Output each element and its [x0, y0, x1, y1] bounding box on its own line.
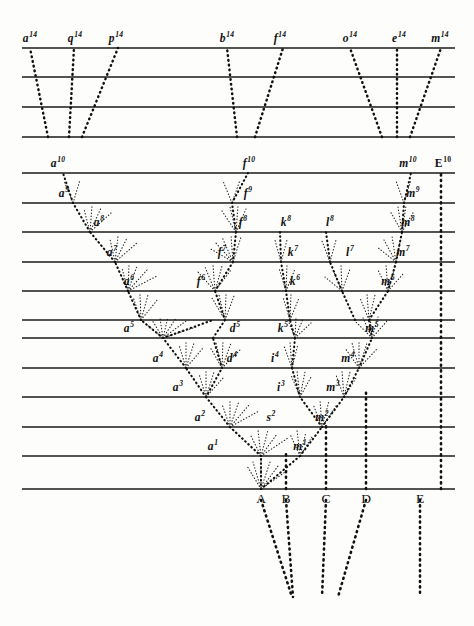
twiglet: [206, 377, 224, 397]
species-label-i4: i4: [271, 351, 279, 364]
species-label-a4: a4: [153, 351, 163, 364]
generation-superscript: 8: [100, 214, 104, 223]
twiglet: [210, 347, 222, 368]
generation-superscript: 9: [248, 185, 252, 194]
generation-superscript: 8: [287, 214, 291, 223]
species-letter: e: [392, 32, 397, 44]
species-label-a5: a5: [124, 321, 134, 334]
species-label-f14: f14: [274, 31, 287, 44]
species-label-a6: a6: [124, 274, 134, 287]
generation-superscript: 7: [222, 244, 226, 253]
twiglet: [146, 324, 163, 338]
generation-superscript: 1: [303, 438, 307, 447]
species-label-q14: q14: [68, 31, 82, 44]
species-label-o14: o14: [343, 31, 357, 44]
trunk-i4-to-k5: [292, 338, 295, 368]
generation-superscript: 7: [113, 244, 117, 253]
branch-p14: [82, 48, 118, 137]
twiglet: [230, 411, 259, 427]
twiglet: [186, 348, 203, 368]
twiglet: [230, 405, 249, 427]
trunk-a2-to-a3: [206, 397, 230, 427]
species-letter: m: [381, 275, 390, 287]
species-label-k7: k7: [288, 245, 298, 258]
species-label-k6: k6: [290, 274, 300, 287]
generation-superscript: 10: [247, 155, 255, 164]
twiglet: [290, 342, 292, 368]
generation-superscript: 4: [159, 350, 163, 359]
trunk-a4-to-a5: [163, 338, 186, 368]
twiglet: [384, 240, 396, 262]
twiglet: [222, 341, 223, 368]
twiglet: [205, 267, 215, 291]
species-label-a3: a3: [173, 380, 183, 393]
species-label-d5: d5: [230, 321, 240, 334]
trunk-f7-to-f8: [215, 262, 233, 291]
generation-superscript: 14: [29, 30, 37, 39]
generation-superscript: 6: [391, 273, 395, 282]
species-label-d4: d4: [227, 351, 237, 364]
species-letter: i: [277, 381, 280, 393]
species-letter: l: [326, 216, 329, 228]
generation-superscript: 10: [57, 155, 65, 164]
generation-superscript: 5: [284, 320, 288, 329]
species-label-a7: a7: [107, 245, 117, 258]
twiglet: [236, 206, 238, 232]
twiglet: [212, 298, 225, 320]
generation-superscript: 2: [201, 409, 205, 418]
twiglet: [359, 343, 367, 368]
species-label-m10: m10: [399, 156, 417, 169]
twiglet: [163, 318, 176, 338]
genus-label-B: B: [281, 492, 290, 506]
generation-superscript: 7: [294, 244, 298, 253]
generation-superscript: 8: [330, 214, 334, 223]
branch-b14: [227, 48, 237, 137]
species-letter: m: [396, 246, 405, 258]
species-label-a9: a9: [59, 186, 69, 199]
species-label-m3: m3: [326, 380, 340, 393]
twiglet: [295, 323, 311, 338]
generation-superscript: 4: [275, 350, 279, 359]
trunk-m6-to-m7: [369, 291, 388, 320]
twiglet: [333, 270, 342, 291]
species-label-e14: e14: [392, 31, 406, 44]
species-label-f8: f8: [239, 215, 248, 228]
species-letter: f: [274, 32, 278, 44]
twiglet: [367, 294, 369, 320]
species-label-k5: k5: [278, 321, 288, 334]
trunk-a3-to-d4: [206, 368, 222, 397]
species-label-s2: s2: [266, 410, 275, 423]
species-letter: m: [326, 381, 335, 393]
species-label-l7: l7: [346, 245, 354, 258]
species-label-f9: f9: [244, 186, 253, 199]
genus-label-E: E: [416, 492, 424, 506]
species-label-m8: m8: [401, 215, 415, 228]
generation-superscript: 14: [441, 30, 449, 39]
species-letter: f: [197, 275, 201, 287]
branch-o14: [350, 48, 382, 137]
species-label-a10: a10: [51, 156, 65, 169]
species-letter: m: [341, 352, 350, 364]
trunk-d4-to-d5: [213, 338, 222, 368]
species-letter: m: [293, 440, 302, 452]
generation-superscript: 6: [296, 273, 300, 282]
trunk-a3-to-a4: [186, 368, 206, 397]
trunk-a1-to-a2: [230, 427, 261, 456]
twiglet: [73, 180, 80, 203]
trunk-m6-to-l7: [342, 291, 355, 320]
darwin-divergence-diagram: [0, 0, 474, 626]
generation-superscript: 2: [272, 409, 276, 418]
generation-superscript: 14: [398, 30, 406, 39]
species-letter: E: [435, 157, 443, 169]
generation-superscript: 14: [278, 30, 286, 39]
species-label-f7: f7: [218, 245, 227, 258]
twiglet: [396, 181, 404, 203]
species-label-m2: m2: [315, 410, 329, 423]
generation-superscript: 7: [406, 244, 410, 253]
twiglet: [215, 270, 231, 291]
twiglet: [342, 269, 350, 291]
trunk-A-to-m1: [261, 456, 300, 489]
twiglet: [377, 247, 396, 262]
trunk-k8-top: [280, 232, 281, 262]
generation-superscript: 5: [375, 320, 379, 329]
